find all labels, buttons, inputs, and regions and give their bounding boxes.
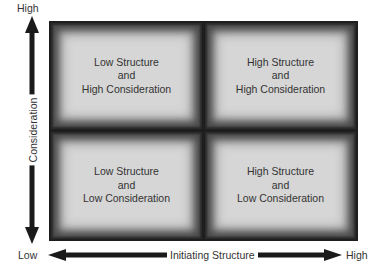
quadrant-line: High Consideration (236, 83, 325, 97)
quadrant-line: High Structure (236, 56, 325, 70)
y-axis-title: Consideration (27, 95, 39, 166)
quadrant-low-structure-low-consideration: Low Structure and Low Consideration (51, 132, 202, 239)
quadrant-high-structure-high-consideration: High Structure and High Consideration (205, 23, 356, 129)
x-axis-arrowhead-right (324, 249, 342, 261)
quadrant-line: High Structure (237, 165, 324, 179)
x-axis-high-label: High (346, 249, 368, 261)
x-axis-arrowhead-left (48, 249, 66, 261)
quadrant-line: Low Structure (82, 56, 171, 70)
x-axis-title: Initiating Structure (167, 249, 258, 261)
quadrant-line: and (236, 69, 325, 83)
quadrant-line: Low Structure (83, 165, 170, 179)
axis-low-label: Low (18, 249, 37, 261)
y-axis-arrowhead-down (25, 227, 39, 244)
quadrant-line: High Consideration (82, 83, 171, 97)
y-axis-arrowhead-up (25, 16, 39, 33)
quadrant-high-structure-low-consideration: High Structure and Low Consideration (205, 132, 356, 239)
quadrant-line: and (82, 69, 171, 83)
quadrant-low-structure-high-consideration: Low Structure and High Consideration (51, 23, 202, 129)
quadrant-line: Low Consideration (237, 192, 324, 206)
quadrant-line: and (83, 179, 170, 193)
quadrant-line: and (237, 179, 324, 193)
y-axis-high-label: High (17, 2, 39, 14)
quadrant-line: Low Consideration (83, 192, 170, 206)
leadership-grid: Low Structure and High Consideration Hig… (49, 21, 358, 241)
